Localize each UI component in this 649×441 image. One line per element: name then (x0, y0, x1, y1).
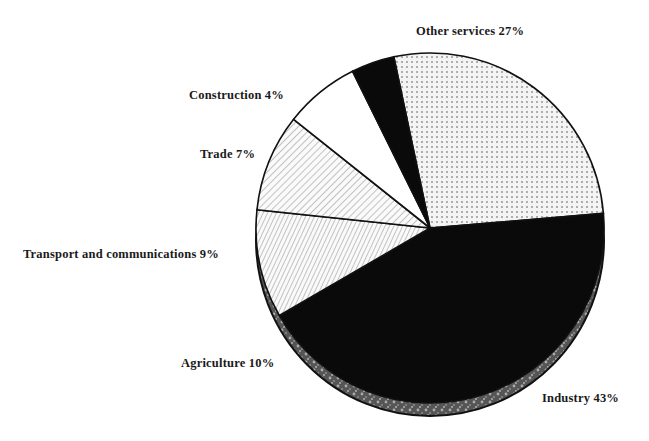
label-trade: Trade 7% (200, 147, 255, 162)
label-agriculture: Agriculture 10% (181, 356, 274, 371)
pie-slices (256, 53, 604, 403)
label-transport: Transport and communications 9% (23, 247, 219, 262)
pie-chart (0, 0, 649, 441)
label-construction: Construction 4% (189, 88, 284, 103)
label-other-services: Other services 27% (416, 24, 524, 39)
label-industry: Industry 43% (542, 391, 619, 406)
